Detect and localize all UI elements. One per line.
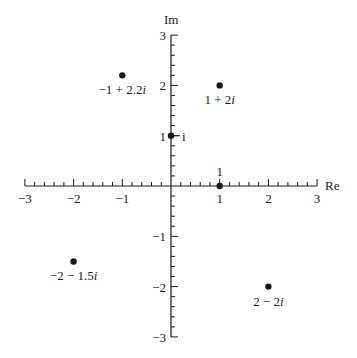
data-point [217,183,223,189]
y-tick-label: −1 [152,229,166,244]
point-label: 1 [216,164,223,179]
data-point [217,82,223,88]
x-tick-label: −2 [67,191,81,206]
y-axis-label: Im [164,12,178,27]
y-tick-label: −3 [152,330,166,345]
y-tick-label: 1 [160,129,167,144]
x-tick-label: −1 [115,191,129,206]
x-tick-label: 1 [216,191,223,206]
point-label: 1 + 2i [204,92,235,107]
data-point [168,133,174,139]
point-label: −1 + 2.2i [99,82,147,97]
axes [25,35,317,337]
y-tick-label: 3 [160,28,167,43]
data-point [119,72,125,78]
point-label: 2 − 2i [253,294,284,309]
point-label: −2 − 1.5i [50,268,98,283]
data-point [265,283,271,289]
x-tick-label: 2 [265,191,272,206]
points: −1 + 2.2i1 + 2ii1−2 − 1.5i2 − 2i [50,72,284,308]
data-point [70,258,76,264]
x-tick-label: −3 [18,191,32,206]
x-axis-label: Re [325,178,340,193]
point-label: i [182,129,186,144]
y-tick-label: 2 [160,78,167,93]
complex-plane-plot: −3−2−1123321−1−2−3 −1 + 2.2i1 + 2ii1−2 −… [0,0,357,358]
y-tick-label: −2 [152,280,166,295]
x-tick-label: 3 [314,191,321,206]
